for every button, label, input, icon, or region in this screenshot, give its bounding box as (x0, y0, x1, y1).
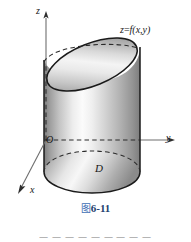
surface-equation-label: z=f(x,y) (120, 25, 150, 35)
origin-label: O (46, 135, 53, 145)
figure-caption: 图6-11 (0, 203, 191, 214)
figure-caption-prefix: 图 (81, 203, 91, 214)
figure-caption-number: 6-11 (91, 202, 111, 214)
axis-label-y: y (166, 133, 170, 143)
figure-container: z y x O D z=f(x,y) 图6-11 一 一 一 一 一 一 一 一… (0, 0, 191, 242)
axis-label-z: z (36, 6, 40, 16)
region-d-label: D (95, 163, 103, 174)
surface-equation-args: (x,y) (132, 24, 150, 35)
page-footer-text: 一 一 一 一 一 一 一 一 一 (0, 231, 191, 242)
axis-label-x: x (30, 185, 34, 195)
